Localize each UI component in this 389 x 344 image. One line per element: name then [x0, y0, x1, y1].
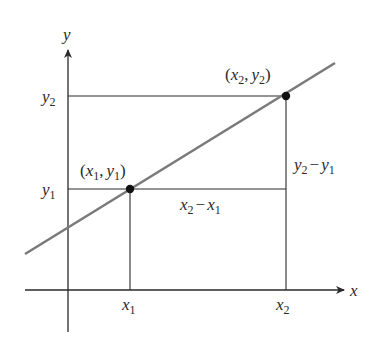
tick-x2: x2 — [275, 295, 290, 317]
run-label: x2−x1 — [179, 195, 221, 217]
secant-line — [25, 63, 335, 254]
point-p1 — [126, 185, 134, 193]
point-p2 — [282, 92, 290, 100]
tick-y2: y2 — [40, 87, 56, 109]
tick-y1: y1 — [40, 180, 56, 202]
rise-label: y2−y1 — [292, 155, 335, 177]
slope-diagram: y x y2 y1 x1 x2 (x1,y1) (x2,y2) x2−x1 y2… — [0, 0, 389, 344]
point-p1-label: (x1,y1) — [80, 161, 126, 183]
tick-x1: x1 — [121, 295, 136, 317]
x-axis-label: x — [349, 281, 358, 300]
point-p2-label: (x2,y2) — [225, 65, 271, 87]
y-axis-label: y — [61, 25, 71, 44]
